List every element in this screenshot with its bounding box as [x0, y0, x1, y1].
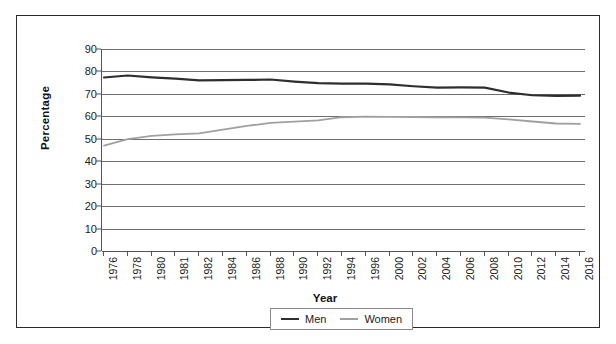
- x-tick-label-1981: 1981: [178, 257, 190, 280]
- x-tick-label-1984: 1984: [226, 257, 238, 280]
- y-tick-mark-30: [96, 183, 101, 184]
- y-tick-mark-0: [96, 251, 101, 252]
- x-tick-mark-2014: [555, 251, 556, 256]
- x-tick-mark-2010: [508, 251, 509, 256]
- chart-lines: [102, 49, 586, 251]
- x-tick-label-2000: 2000: [393, 257, 405, 280]
- x-tick-label-1996: 1996: [369, 257, 381, 280]
- x-tick-label-1990: 1990: [297, 257, 309, 280]
- x-tick-label-2010: 2010: [512, 257, 524, 280]
- x-tick-mark-1990: [293, 251, 294, 256]
- x-tick-label-1976: 1976: [107, 257, 119, 280]
- chart-legend: MenWomen: [270, 308, 413, 330]
- x-tick-label-1980: 1980: [155, 257, 167, 280]
- y-axis-title: Percentage: [39, 86, 51, 150]
- x-tick-mark-2016: [579, 251, 580, 256]
- x-tick-mark-1986: [246, 251, 247, 256]
- x-tick-mark-2002: [412, 251, 413, 256]
- x-tick-label-2002: 2002: [416, 257, 428, 280]
- figure-frame: Percentage 9080706050403020100 197619781…: [16, 15, 600, 328]
- x-tick-label-2012: 2012: [535, 257, 547, 280]
- x-tick-label-2006: 2006: [464, 257, 476, 280]
- y-tick-mark-70: [96, 93, 101, 94]
- x-tick-mark-1988: [270, 251, 271, 256]
- y-tick-mark-80: [96, 71, 101, 72]
- x-tick-mark-1981: [174, 251, 175, 256]
- legend-label-women: Women: [364, 313, 402, 325]
- x-tick-mark-1996: [365, 251, 366, 256]
- x-tick-mark-1994: [341, 251, 342, 256]
- x-tick-mark-2012: [531, 251, 532, 256]
- x-tick-label-1992: 1992: [321, 257, 333, 280]
- x-tick-mark-1992: [317, 251, 318, 256]
- plot-area: [101, 49, 585, 251]
- y-tick-mark-40: [96, 161, 101, 162]
- y-tick-mark-50: [96, 138, 101, 139]
- legend-swatch-women: [340, 318, 358, 321]
- legend-swatch-men: [281, 318, 299, 321]
- x-tick-label-1988: 1988: [274, 257, 286, 280]
- chart-page: Percentage 9080706050403020100 197619781…: [0, 0, 616, 344]
- x-tick-mark-2000: [389, 251, 390, 256]
- x-axis-title: Year: [17, 292, 616, 304]
- y-tick-mark-20: [96, 206, 101, 207]
- x-tick-label-2014: 2014: [559, 257, 571, 280]
- x-tick-mark-1982: [198, 251, 199, 256]
- x-tick-label-1994: 1994: [345, 257, 357, 280]
- y-tick-mark-90: [96, 49, 101, 50]
- legend-label-men: Men: [305, 313, 326, 325]
- x-tick-label-2004: 2004: [440, 257, 452, 280]
- x-tick-mark-2004: [436, 251, 437, 256]
- y-axis-tick-labels: 9080706050403020100: [63, 49, 97, 251]
- legend-entry-women[interactable]: Women: [340, 313, 402, 325]
- x-tick-label-1982: 1982: [202, 257, 214, 280]
- x-tick-label-1978: 1978: [131, 257, 143, 280]
- series-line-women: [104, 117, 580, 146]
- x-tick-label-1986: 1986: [250, 257, 262, 280]
- x-tick-mark-1980: [151, 251, 152, 256]
- x-tick-mark-2006: [460, 251, 461, 256]
- y-tick-mark-60: [96, 116, 101, 117]
- series-line-men: [104, 75, 580, 95]
- x-tick-mark-1978: [127, 251, 128, 256]
- x-tick-mark-2008: [484, 251, 485, 256]
- x-axis-tick-labels: 1976197819801981198219841986198819901992…: [101, 257, 585, 289]
- x-tick-mark-1984: [222, 251, 223, 256]
- y-tick-mark-10: [96, 228, 101, 229]
- x-tick-label-2008: 2008: [488, 257, 500, 280]
- x-tick-mark-1976: [103, 251, 104, 256]
- legend-entry-men[interactable]: Men: [281, 313, 326, 325]
- x-tick-label-2016: 2016: [583, 257, 595, 280]
